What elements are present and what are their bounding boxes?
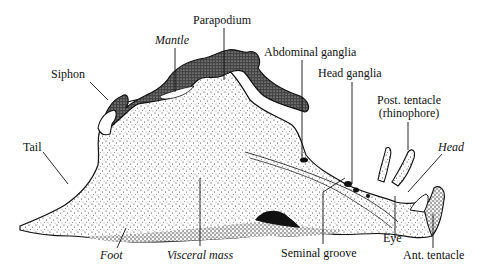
eye-marker bbox=[366, 194, 370, 198]
label-ant-tentacle: Ant. tentacle bbox=[403, 249, 464, 262]
leader-tail bbox=[43, 152, 68, 184]
label-foot: Foot bbox=[100, 249, 123, 262]
abdominal-ganglion-marker bbox=[300, 158, 308, 163]
label-head-ganglia: Head ganglia bbox=[318, 67, 382, 80]
posterior-tentacle-right bbox=[392, 150, 415, 186]
label-parapodium: Parapodium bbox=[193, 14, 251, 27]
head-ganglion-marker bbox=[344, 181, 352, 187]
label-post-tentacle: Post. tentacle (rhinophore) bbox=[373, 94, 445, 120]
label-tail: Tail bbox=[23, 141, 42, 154]
label-eye: Eye bbox=[383, 232, 402, 245]
anatomy-diagram: Parapodium Mantle Siphon Abdominal gangl… bbox=[0, 0, 490, 270]
body-outline bbox=[20, 65, 437, 242]
head-ganglion-marker-2 bbox=[353, 188, 359, 193]
leader-siphon bbox=[90, 82, 108, 100]
label-head: Head bbox=[438, 141, 464, 154]
label-siphon: Siphon bbox=[51, 68, 85, 81]
sea-hare-drawing bbox=[0, 0, 490, 270]
label-mantle: Mantle bbox=[155, 34, 189, 47]
label-visceral-mass: Visceral mass bbox=[167, 249, 233, 262]
label-post-tentacle-line2: (rhinophore) bbox=[373, 107, 445, 120]
label-seminal-groove: Seminal groove bbox=[281, 247, 357, 260]
posterior-tentacle-left bbox=[378, 147, 391, 182]
label-abdominal-ganglia: Abdominal ganglia bbox=[264, 46, 356, 59]
